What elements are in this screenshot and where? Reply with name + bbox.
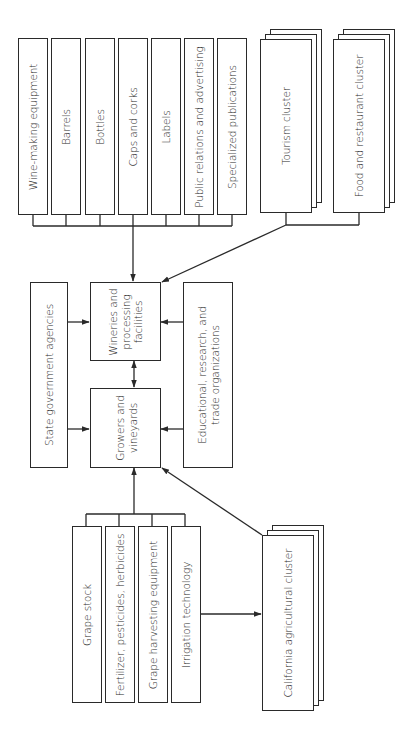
grape-harvesting-label: Grape harvesting equipment	[147, 540, 160, 688]
public-relations-label: Public relations and advertising	[193, 46, 206, 208]
food-restaurant-cluster-label: Food and restaurant cluster	[353, 55, 366, 198]
grape-stock-label: Grape stock	[81, 583, 94, 645]
state-government-label: State government agencies	[43, 304, 56, 446]
grape-stock-box: Grape stock	[72, 526, 102, 703]
barrels-box: Barrels	[51, 38, 81, 215]
irrigation-label: Irrigation technology	[180, 561, 193, 668]
wineries-label-line-2: processing	[119, 287, 132, 357]
growers-label-line-2: vineyards	[126, 393, 139, 463]
educational-box: Educational, research, and trade organiz…	[183, 282, 233, 468]
food-restaurant-cluster-box: Food and restaurant cluster	[333, 39, 385, 213]
bottles-label: Bottles	[94, 109, 107, 145]
wineries-label-line-1: Wineries and	[107, 287, 120, 357]
grape-harvesting-box: Grape harvesting equipment	[138, 526, 168, 703]
labels-label: Labels	[160, 110, 173, 143]
bottles-box: Bottles	[85, 38, 115, 215]
labels-box: Labels	[151, 38, 181, 215]
educational-label-line-1: Educational, research, and	[196, 290, 209, 460]
california-agricultural-cluster-box: California agricultural cluster	[262, 535, 314, 711]
tourism-cluster-box: Tourism cluster	[260, 39, 312, 213]
caps-and-corks-box: Caps and corks	[118, 38, 148, 215]
caps-and-corks-label: Caps and corks	[127, 87, 140, 166]
fertilizer-label: Fertilizer, pesticides, herbicides	[114, 533, 127, 696]
growers-label-line-1: Growers and	[113, 393, 126, 463]
growers-label: Growers and vineyards	[113, 393, 138, 463]
wine-making-equipment-box: Wine-making equipment	[18, 38, 48, 215]
specialized-publications-box: Specialized publications	[217, 38, 247, 215]
wineries-label-line-3: facilities	[132, 287, 145, 357]
wineries-label: Wineries and processing facilities	[107, 287, 145, 357]
public-relations-box: Public relations and advertising	[184, 38, 214, 215]
tourism-cluster-label: Tourism cluster	[280, 87, 293, 165]
irrigation-box: Irrigation technology	[171, 526, 201, 703]
state-government-box: State government agencies	[30, 282, 68, 468]
wineries-box: Wineries and processing facilities	[90, 282, 161, 361]
wine-cluster-diagram: Wine-making equipment Barrels Bottles Ca…	[0, 0, 409, 750]
educational-label: Educational, research, and trade organiz…	[196, 290, 221, 460]
california-agricultural-cluster-label: California agricultural cluster	[282, 549, 295, 698]
educational-label-line-2: trade organizations	[208, 290, 221, 460]
wine-making-equipment-label: Wine-making equipment	[27, 63, 40, 190]
fertilizer-box: Fertilizer, pesticides, herbicides	[105, 526, 135, 703]
specialized-publications-label: Specialized publications	[226, 65, 239, 189]
barrels-label: Barrels	[60, 109, 73, 145]
growers-box: Growers and vineyards	[90, 388, 161, 468]
